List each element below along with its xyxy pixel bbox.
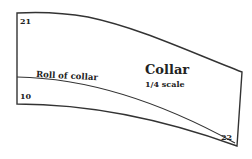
- roll-line: [17, 77, 235, 143]
- collar-pattern: 21 10 22 Roll of collar Collar 1/4 scale: [0, 0, 252, 159]
- point-label-22: 22: [221, 132, 232, 142]
- roll-of-collar-label: Roll of collar: [36, 69, 99, 82]
- point-label-21: 21: [20, 16, 31, 26]
- scale-label: 1/4 scale: [145, 79, 185, 89]
- collar-title: Collar: [145, 62, 189, 77]
- point-label-10: 10: [20, 91, 32, 101]
